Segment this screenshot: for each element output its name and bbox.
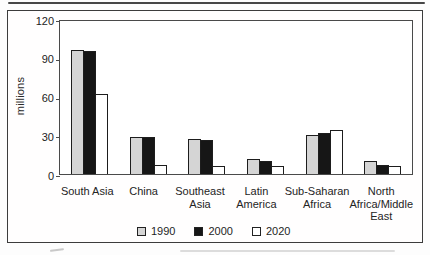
y-tick-label-60: 60 (23, 92, 54, 105)
bar-group-sub-saharan-africa (295, 21, 354, 174)
bar-group-north-africa-middle-east (353, 21, 412, 174)
y-tick-label-30: 30 (23, 131, 54, 144)
bar-north-africa-middle-east-2020 (388, 166, 401, 174)
y-tick-mark-60 (56, 99, 60, 100)
y-tick-label-120: 120 (23, 15, 54, 28)
category-label-north-africa-middle-east: NorthAfrica/MiddleEast (349, 183, 413, 223)
bar-south-asia-2020 (95, 94, 108, 174)
category-label-south-asia: South Asia (59, 183, 115, 223)
bar-southeast-asia-2020 (212, 166, 225, 174)
bar-group-china (119, 21, 178, 174)
category-label-latin-america: LatinAmerica (228, 183, 284, 223)
category-label-sub-saharan-africa: Sub-SaharanAfrica (285, 183, 350, 223)
legend-swatch-2020 (252, 227, 261, 236)
y-tick-mark-90 (56, 60, 60, 61)
category-label-china: China (115, 183, 171, 223)
legend-item-1990: 1990 (137, 225, 175, 237)
scan-artifact-bottom-mark (50, 248, 64, 252)
plot-area: 1209060300 (59, 20, 413, 175)
scan-artifact-bottom-line (180, 250, 395, 252)
bar-china-2020 (154, 165, 167, 174)
bar-latin-america-2020 (271, 166, 284, 174)
category-label-southeast-asia: SoutheastAsia (172, 183, 228, 223)
legend-item-2020: 2020 (252, 225, 290, 237)
y-tick-mark-0 (56, 176, 60, 177)
legend-label-1990: 1990 (151, 225, 175, 237)
y-tick-label-90: 90 (23, 53, 54, 66)
legend-swatch-1990 (137, 227, 146, 236)
bar-sub-saharan-africa-2020 (330, 130, 343, 174)
y-tick-label-0: 0 (23, 170, 54, 183)
bar-group-south-asia (60, 21, 119, 174)
legend-item-2000: 2000 (194, 225, 232, 237)
chart-frame: millions 1209060300 South AsiaChinaSouth… (7, 10, 423, 243)
legend-swatch-2000 (194, 227, 203, 236)
y-tick-mark-120 (56, 21, 60, 22)
y-tick-mark-30 (56, 137, 60, 138)
scan-artifact-top-rule (8, 2, 425, 4)
legend-label-2000: 2000 (208, 225, 232, 237)
bar-groups (60, 21, 412, 174)
x-axis-labels: South AsiaChinaSoutheastAsiaLatinAmerica… (59, 183, 413, 223)
legend: 199020002020 (137, 225, 290, 237)
legend-label-2020: 2020 (266, 225, 290, 237)
bar-group-southeast-asia (177, 21, 236, 174)
bar-group-latin-america (236, 21, 295, 174)
